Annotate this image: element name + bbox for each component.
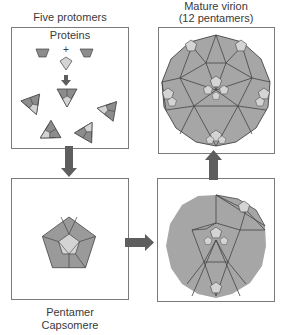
arrow-down-icon [61, 146, 77, 177]
partial-capsid-icon [166, 195, 266, 298]
mature-virion-icon [162, 35, 270, 146]
diagram-graphics [0, 0, 284, 335]
protomer-icon [95, 98, 116, 121]
protein-light-icon [60, 57, 72, 70]
protomer-icon [21, 94, 46, 118]
protomer-icon [74, 117, 100, 143]
pentamer-icon [42, 217, 95, 268]
protein-dark-left-icon [36, 49, 49, 57]
protomer-icon [57, 89, 77, 107]
arrow-up-icon [205, 150, 222, 180]
protein-dark-right-icon [80, 49, 93, 57]
small-arrow-down-icon [61, 75, 71, 86]
protomer-icon [35, 120, 61, 146]
arrow-right-icon [125, 234, 154, 251]
